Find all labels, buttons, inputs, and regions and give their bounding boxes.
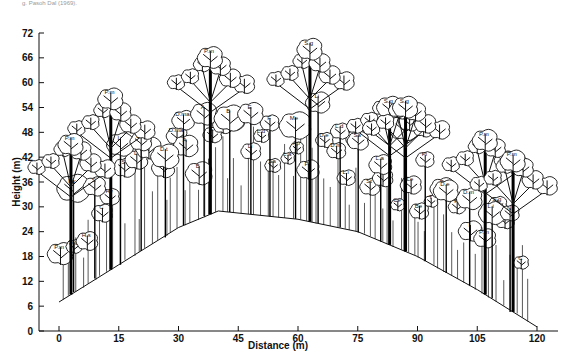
y-tick-label: 36 xyxy=(22,177,34,188)
species-label: D.t xyxy=(160,146,168,152)
tree-crown xyxy=(82,115,99,130)
tree-crown xyxy=(181,69,198,84)
y-axis-title: Height (m) xyxy=(11,157,22,206)
tree-crown xyxy=(484,170,501,185)
y-tick-label: 30 xyxy=(22,201,34,212)
species-label: D.e xyxy=(440,181,450,187)
x-tick-label: 45 xyxy=(233,333,245,344)
tree-crown: P.m xyxy=(58,133,83,155)
y-tick-label: 72 xyxy=(22,28,34,39)
species-label: Me xyxy=(290,115,299,121)
species-label: P.m xyxy=(204,48,214,54)
tree-crown: Ce xyxy=(390,197,404,211)
tree-crown: P.m xyxy=(472,129,497,151)
species-label: S.g xyxy=(384,98,393,104)
tree-crown: Le xyxy=(400,176,421,194)
tree-crown: S.g xyxy=(297,38,322,60)
tree-crown: N xyxy=(500,205,519,222)
y-axis-ticks: 061218243036424854606672 xyxy=(22,28,44,337)
species-label: St xyxy=(366,178,372,184)
tree-crown: S.g xyxy=(392,96,417,118)
tree-crown xyxy=(376,114,393,129)
tree-crown: D.e xyxy=(433,180,458,202)
y-tick-label: 24 xyxy=(22,226,34,237)
tree-crown: Sa xyxy=(347,132,368,151)
tree-crown xyxy=(456,151,473,166)
tree-crown: Sa xyxy=(265,158,281,173)
x-tick-label: 120 xyxy=(529,333,546,344)
species-label: Ap xyxy=(293,140,301,146)
tree-crown: Me xyxy=(279,112,311,140)
y-tick-label: 18 xyxy=(22,251,34,262)
species-label: S.g xyxy=(400,98,409,104)
species-label: Be xyxy=(415,203,423,209)
x-axis-title: Distance (m) xyxy=(248,340,308,351)
y-tick-label: 48 xyxy=(22,127,34,138)
tree-crown: E xyxy=(238,102,264,124)
tree-crown: Pi xyxy=(416,151,434,167)
species-label: C xyxy=(99,204,104,210)
species-label: P.m xyxy=(65,135,75,141)
tree-crown: P.m xyxy=(197,47,222,69)
x-tick-label: 75 xyxy=(352,333,364,344)
species-label: Ce xyxy=(393,197,401,203)
tree-crown: C xyxy=(513,255,528,270)
y-tick-label: 60 xyxy=(22,77,34,88)
tree-crown xyxy=(281,65,298,80)
tree-crown: D.m xyxy=(327,142,346,159)
tree-crown: F xyxy=(260,115,279,132)
species-label: P.m xyxy=(105,89,115,95)
tree-crown: P.m xyxy=(500,150,525,172)
species-label: Pi xyxy=(422,151,427,157)
species-label: H.s xyxy=(82,232,91,238)
tree-crown: D.t xyxy=(151,144,179,169)
species-label: E xyxy=(248,104,252,110)
tree-crown xyxy=(42,153,59,168)
x-tick-label: 0 xyxy=(56,333,62,344)
species-label: D.ma xyxy=(175,111,190,117)
x-tick-label: 90 xyxy=(412,333,424,344)
species-label: D.e xyxy=(319,132,329,138)
tree-crown: B xyxy=(185,162,212,185)
forest-profile-diagram: 061218243036424854606672 015304560759010… xyxy=(0,0,582,363)
species-label: L.a xyxy=(375,155,384,161)
x-tick-label: 30 xyxy=(173,333,185,344)
y-tick-label: 12 xyxy=(22,276,34,287)
tree-crown: P.m xyxy=(98,88,123,110)
species-label: P.m xyxy=(507,151,517,157)
y-tick-label: 0 xyxy=(27,326,33,337)
species-label: L.d xyxy=(335,123,343,129)
species-label: P.m xyxy=(54,244,64,250)
species-label: F xyxy=(267,115,271,121)
y-tick-label: 66 xyxy=(22,52,34,63)
species-label: L.i xyxy=(342,169,348,175)
x-tick-label: 15 xyxy=(113,333,125,344)
tree-crown: Ap xyxy=(290,140,304,154)
species-label: Le xyxy=(407,176,414,182)
species-label: P.m xyxy=(479,131,489,137)
species-label: B xyxy=(196,163,200,169)
species-label: C xyxy=(518,255,523,261)
species-label: D.m xyxy=(463,189,474,195)
species-label: L.i xyxy=(488,203,494,209)
species-label: S.g xyxy=(304,40,313,46)
y-tick-label: 54 xyxy=(22,102,34,113)
species-label: Li xyxy=(248,143,253,149)
y-tick-label: 6 xyxy=(27,301,33,312)
tree-crown: Pi xyxy=(297,160,320,180)
tree-crown: A xyxy=(190,102,216,125)
x-tick-label: 105 xyxy=(469,333,486,344)
species-label: B xyxy=(226,108,230,114)
